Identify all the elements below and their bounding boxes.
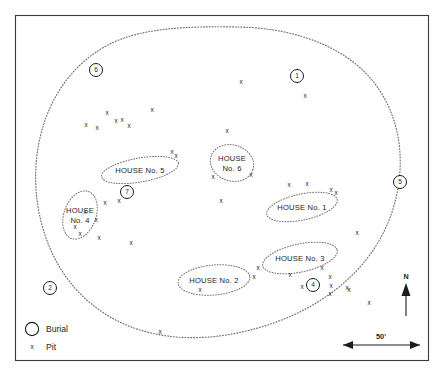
burial-number: 1 [295, 72, 299, 79]
burial-number: 7 [125, 188, 129, 195]
house-label: HOUSE No. 5 [115, 166, 164, 175]
burial-number: 5 [398, 178, 402, 185]
scale-bar-label: 50' [376, 332, 386, 341]
burial-number: 6 [94, 66, 98, 73]
house-label: HOUSE [66, 206, 94, 215]
house-label: HOUSE No. 2 [189, 276, 238, 285]
burial-2: 2 [44, 282, 57, 295]
burial-1: 1 [291, 70, 304, 83]
burial-4: 4 [307, 279, 320, 292]
burial-number: 2 [48, 284, 52, 291]
house-label: No. 6 [222, 164, 241, 173]
legend-burial-icon [25, 322, 38, 335]
burial-7-house5: 7 [121, 186, 134, 199]
burial-5: 5 [394, 176, 407, 189]
house-label: HOUSE No. 1 [277, 203, 326, 212]
burial-number: 4 [311, 281, 315, 288]
north-arrow-label: N [403, 272, 408, 281]
burial-6: 6 [90, 64, 103, 77]
house-label: HOUSE [218, 154, 246, 163]
legend-pit-label: Pit [46, 342, 57, 352]
site-plan-figure: HOUSE No. 1HOUSE No. 2HOUSE No. 3HOUSENo… [0, 0, 444, 376]
legend-burial-label: Burial [46, 324, 68, 334]
house-label: HOUSE No. 3 [275, 254, 324, 263]
site-plan-svg: HOUSE No. 1HOUSE No. 2HOUSE No. 3HOUSENo… [0, 0, 444, 376]
